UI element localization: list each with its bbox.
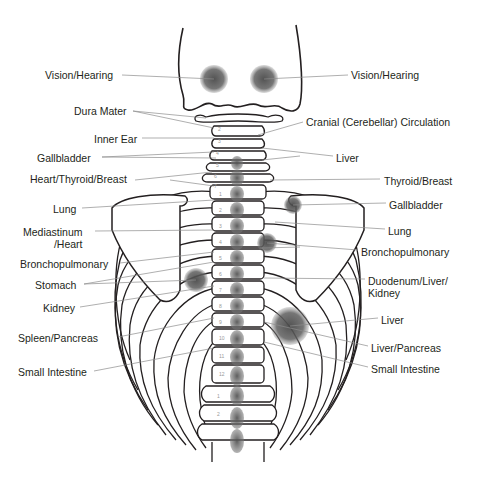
skull [179, 25, 302, 111]
svg-text:4: 4 [216, 150, 219, 156]
svg-text:3: 3 [218, 138, 221, 144]
label-thyroid-breast: Thyroid/Breast [384, 175, 452, 187]
label-duodenum-liver-kidney: Duodenum/Liver/ Kidney [368, 275, 448, 299]
svg-text:12: 12 [219, 371, 225, 377]
label-small-intestine-right: Small Intestine [371, 363, 440, 375]
label-small-intestine-left: Small Intestine [18, 366, 87, 378]
label-lung-right: Lung [388, 225, 411, 237]
svg-text:9: 9 [219, 319, 222, 325]
svg-text:3: 3 [219, 223, 222, 229]
label-vision-hearing-left: Vision/Hearing [45, 69, 113, 81]
label-bronchopulmonary-right: Bronchopulmonary [361, 246, 449, 258]
label-liver-upper: Liver [336, 152, 359, 164]
svg-text:6: 6 [219, 271, 222, 277]
label-gallbladder-right: Gallbladder [389, 199, 443, 211]
label-bronchopulmonary-left: Bronchopulmonary [20, 258, 108, 270]
label-spleen-pancreas: Spleen/Pancreas [18, 332, 98, 344]
label-kidney: Kidney [43, 302, 75, 314]
svg-text:2: 2 [218, 126, 221, 132]
svg-text:5: 5 [216, 162, 219, 168]
label-vision-hearing-right: Vision/Hearing [351, 69, 419, 81]
label-liver-lower: Liver [381, 314, 404, 326]
label-mediastinum-heart: Mediastinum /Heart [23, 226, 83, 250]
label-stomach: Stomach [35, 279, 76, 291]
svg-text:10: 10 [219, 335, 225, 341]
svg-text:8: 8 [219, 303, 222, 309]
label-heart-thyroid-breast: Heart/Thyroid/Breast [30, 173, 127, 185]
svg-text:4: 4 [219, 239, 222, 245]
label-inner-ear: Inner Ear [94, 133, 137, 145]
svg-text:7: 7 [214, 183, 217, 189]
svg-text:6: 6 [214, 173, 217, 179]
svg-text:7: 7 [219, 287, 222, 293]
label-gallbladder-left: Gallbladder [37, 152, 91, 164]
svg-text:5: 5 [219, 255, 222, 261]
label-lung-left: Lung [53, 203, 76, 215]
label-liver-pancreas: Liver/Pancreas [371, 342, 441, 354]
svg-text:1: 1 [219, 191, 222, 197]
svg-text:2: 2 [219, 207, 222, 213]
svg-text:1: 1 [217, 393, 220, 399]
label-dura-mater: Dura Mater [74, 105, 127, 117]
svg-text:11: 11 [219, 353, 224, 359]
label-cranial-circulation: Cranial (Cerebellar) Circulation [306, 116, 450, 128]
svg-text:2: 2 [217, 411, 220, 417]
